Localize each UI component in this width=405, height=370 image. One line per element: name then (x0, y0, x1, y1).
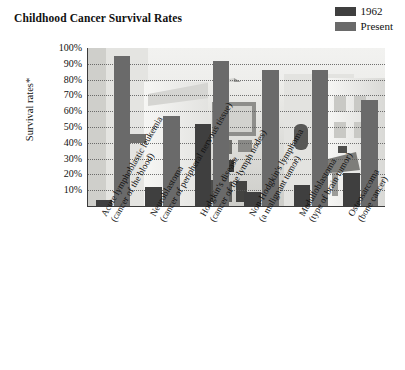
gridline (88, 80, 385, 81)
y-tick-label: 70% (36, 90, 82, 100)
y-tick-label: 50% (36, 122, 82, 132)
legend-swatch-icon (335, 7, 356, 16)
y-tick-label: 100% (36, 43, 82, 53)
gridline (88, 127, 385, 128)
chart-legend: 1962Present (335, 5, 393, 33)
y-tick-label: 10% (36, 185, 82, 195)
legend-item-present: Present (335, 20, 393, 33)
y-tick-label: 90% (36, 59, 82, 69)
legend-label: Present (361, 21, 393, 32)
gridline (88, 64, 385, 65)
y-tick-label: 40% (36, 138, 82, 148)
legend-item-1962: 1962 (335, 5, 393, 18)
x-axis-category-labels: Acute lymphoblastic leukemia(cancer of t… (0, 207, 405, 367)
y-tick-label: 30% (36, 154, 82, 164)
childhood-cancer-survival-chart: Childhood Cancer Survival Rates 1962Pres… (0, 0, 405, 370)
y-tick-label: 20% (36, 169, 82, 179)
y-axis-line (87, 48, 88, 207)
y-tick-label: 60% (36, 106, 82, 116)
legend-label: 1962 (361, 6, 383, 17)
y-tick-label: 80% (36, 75, 82, 85)
gridline (88, 95, 385, 96)
y-axis-title: Survival rates* (24, 60, 35, 160)
gridline (88, 111, 385, 112)
legend-swatch-icon (335, 22, 356, 31)
